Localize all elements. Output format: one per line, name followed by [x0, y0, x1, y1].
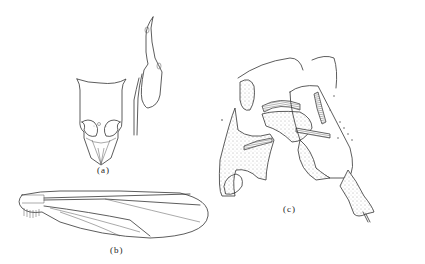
panel-a-head-frontal — [77, 79, 126, 165]
panel-a-label: (a) — [97, 165, 110, 175]
illustration-svg — [0, 0, 425, 264]
panel-b-wing — [19, 191, 208, 238]
panel-c-genitalia — [219, 56, 374, 222]
panel-b-label: (b) — [110, 245, 124, 255]
figure-plate: (a) (b) (c) — [0, 0, 425, 264]
panel-c-label: (c) — [283, 204, 296, 214]
panel-a-head-lateral — [134, 17, 162, 135]
